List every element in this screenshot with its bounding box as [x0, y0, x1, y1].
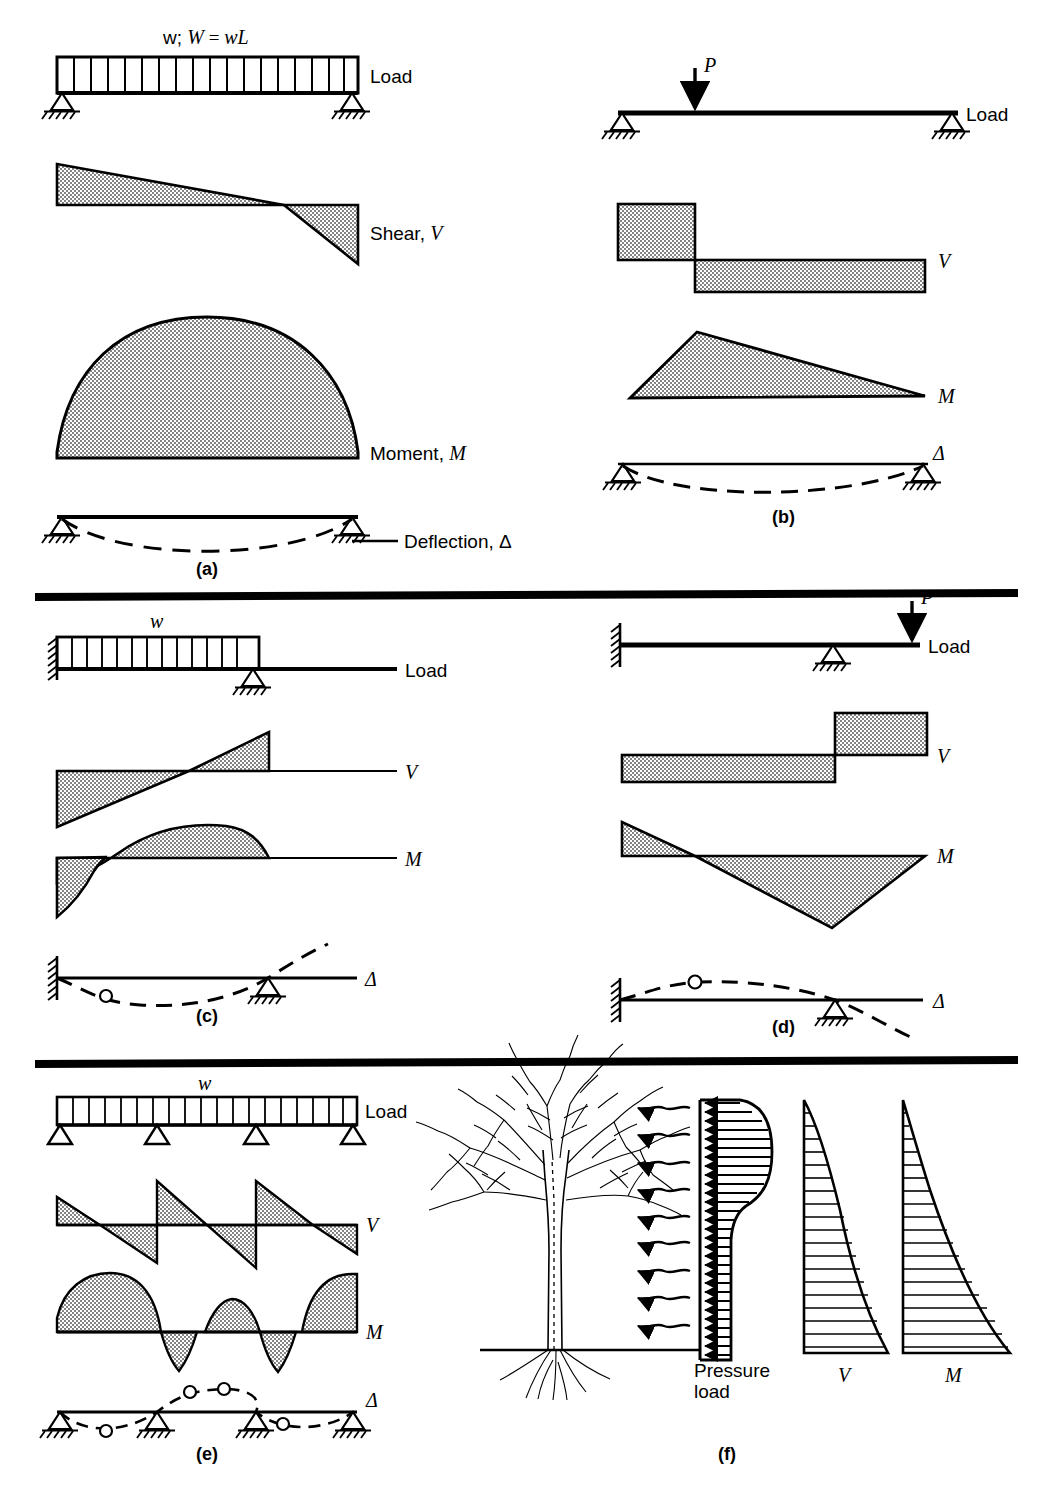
- panel-d-load-symbol: P: [920, 586, 933, 608]
- panel-b-moment-label: M: [937, 385, 956, 407]
- section-divider-1: [35, 593, 1018, 597]
- panel-c-load-label: Load: [405, 660, 447, 681]
- pressure-load-label-line1: Pressure: [694, 1360, 770, 1381]
- inflection-marker-3: [218, 1383, 230, 1395]
- inflection-marker-2: [184, 1386, 196, 1398]
- panel-a-shear-label: Shear, V: [370, 222, 445, 244]
- panel-b-deflection-label: Δ: [932, 442, 945, 464]
- panel-a-load-value: w; W = wL: [162, 26, 249, 48]
- panel-e-caption: (e): [196, 1444, 218, 1464]
- panel-f-caption: (f): [718, 1444, 736, 1464]
- panel-e-moment-label: M: [365, 1321, 384, 1343]
- section-divider-2: [35, 1060, 1018, 1064]
- panel-d-caption: (d): [772, 1017, 795, 1037]
- panel-d-moment-label: M: [936, 845, 955, 867]
- panel-d-deflection-label: Δ: [932, 990, 945, 1012]
- inflection-marker-1: [100, 1425, 112, 1437]
- panel-e-load-label: Load: [365, 1101, 407, 1122]
- figure-page: Load w; W = wL Shear, V Moment, M Deflec…: [0, 0, 1050, 1497]
- panel-c-deflection-label: Δ: [364, 968, 377, 990]
- inflection-point-marker: [100, 990, 112, 1002]
- panel-c-caption: (c): [196, 1006, 218, 1026]
- shear-block-positive: [618, 204, 695, 260]
- pressure-load-label-line2: load: [694, 1381, 730, 1402]
- shear-block-positive: [835, 713, 927, 755]
- inflection-marker-4: [277, 1418, 289, 1430]
- panel-a-moment-label: Moment, M: [370, 442, 467, 464]
- panel-d-load-label: Load: [928, 636, 970, 657]
- panel-c-moment-label: M: [404, 848, 423, 870]
- panel-f-moment-label: M: [944, 1364, 963, 1386]
- panel-b-caption: (b): [772, 507, 795, 527]
- panel-a-caption: (a): [196, 559, 218, 579]
- panel-a-deflection-label: Deflection, Δ: [404, 531, 512, 552]
- shear-block-negative: [622, 755, 835, 782]
- panel-e-deflection-label: Δ: [365, 1389, 378, 1411]
- inflection-point-marker: [689, 976, 702, 989]
- panel-b-load-symbol: P: [703, 54, 716, 76]
- panel-a-load-label: Load: [370, 66, 412, 87]
- panel-e-load-symbol: w: [198, 1072, 212, 1094]
- panel-c-load-symbol: w: [150, 610, 164, 632]
- shear-block-negative: [695, 260, 925, 292]
- panel-b-load-label: Load: [966, 104, 1008, 125]
- beam-diagram-figure: Load w; W = wL Shear, V Moment, M Deflec…: [0, 0, 1050, 1497]
